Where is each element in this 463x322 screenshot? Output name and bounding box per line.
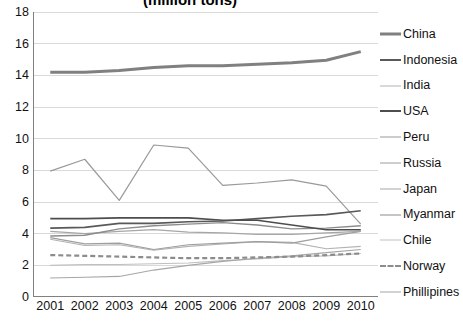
legend-item-india[interactable]: India [380, 79, 430, 93]
x-tick-label: 2007 [243, 300, 271, 313]
legend-swatch-chile [380, 234, 401, 246]
x-tick-label: 2005 [174, 300, 202, 313]
chart-title: (million tons) [0, 0, 380, 8]
legend-item-china[interactable]: China [380, 27, 436, 41]
legend-label: Myanmar [403, 208, 455, 221]
x-tick-label: 2001 [36, 300, 64, 313]
y-tick-label: 18 [15, 6, 29, 19]
legend-swatch-japan [380, 183, 401, 195]
y-tick-label: 16 [15, 37, 29, 50]
legend-label: Japan [403, 183, 437, 196]
y-tick-label: 6 [22, 196, 29, 209]
series-line-phillipines [50, 250, 361, 279]
y-axis-labels: 024681012141618 [0, 12, 29, 297]
legend-item-russia[interactable]: Russia [380, 156, 441, 170]
x-tick-label: 2006 [209, 300, 237, 313]
x-tick-label: 2004 [140, 300, 168, 313]
x-tick-label: 2003 [105, 300, 133, 313]
legend-label: Russia [403, 157, 441, 170]
legend-label: USA [403, 105, 429, 118]
y-tick-label: 8 [22, 164, 29, 177]
chart-legend: ChinaIndonesiaIndiaUSAPeruRussiaJapanMya… [380, 27, 463, 312]
legend-label: China [403, 28, 436, 41]
legend-swatch-russia [380, 157, 401, 169]
series-line-india [50, 239, 361, 250]
legend-swatch-phillipines [380, 286, 401, 298]
legend-label: Chile [403, 234, 432, 247]
legend-label: Norway [403, 260, 445, 273]
legend-item-japan[interactable]: Japan [380, 182, 437, 196]
y-tick-label: 12 [15, 101, 29, 114]
y-tick-label: 10 [15, 132, 29, 145]
legend-item-peru[interactable]: Peru [380, 130, 429, 144]
legend-item-usa[interactable]: USA [380, 104, 429, 118]
legend-item-chile[interactable]: Chile [380, 233, 432, 247]
plot-area [33, 12, 378, 297]
line-chart: (million tons) 024681012141618 200120022… [0, 0, 463, 322]
legend-label: Phillipines [403, 286, 459, 299]
legend-item-phillipines[interactable]: Phillipines [380, 285, 459, 299]
legend-swatch-norway [380, 260, 401, 272]
x-tick-label: 2002 [71, 300, 99, 313]
legend-item-norway[interactable]: Norway [380, 259, 445, 273]
y-tick-label: 14 [15, 69, 29, 82]
legend-swatch-usa [380, 105, 401, 117]
legend-swatch-peru [380, 131, 401, 143]
legend-item-indonesia[interactable]: Indonesia [380, 53, 457, 67]
legend-item-myanmar[interactable]: Myanmar [380, 208, 455, 222]
legend-swatch-myanmar [380, 209, 401, 221]
y-tick-label: 2 [22, 259, 29, 272]
legend-label: Peru [403, 131, 429, 144]
x-axis-labels: 2001200220032004200520062007200820092010 [33, 300, 378, 320]
series-line-peru [50, 145, 361, 224]
series-line-china [50, 52, 361, 73]
x-tick-label: 2010 [347, 300, 375, 313]
plot-svg [33, 12, 378, 297]
x-tick-label: 2009 [312, 300, 340, 313]
y-tick-label: 4 [22, 227, 29, 240]
legend-label: India [403, 79, 430, 92]
legend-label: Indonesia [403, 54, 457, 67]
x-tick-label: 2008 [278, 300, 306, 313]
y-tick-label: 0 [22, 291, 29, 304]
legend-swatch-india [380, 80, 401, 92]
legend-swatch-indonesia [380, 54, 401, 66]
legend-swatch-china [380, 28, 401, 40]
